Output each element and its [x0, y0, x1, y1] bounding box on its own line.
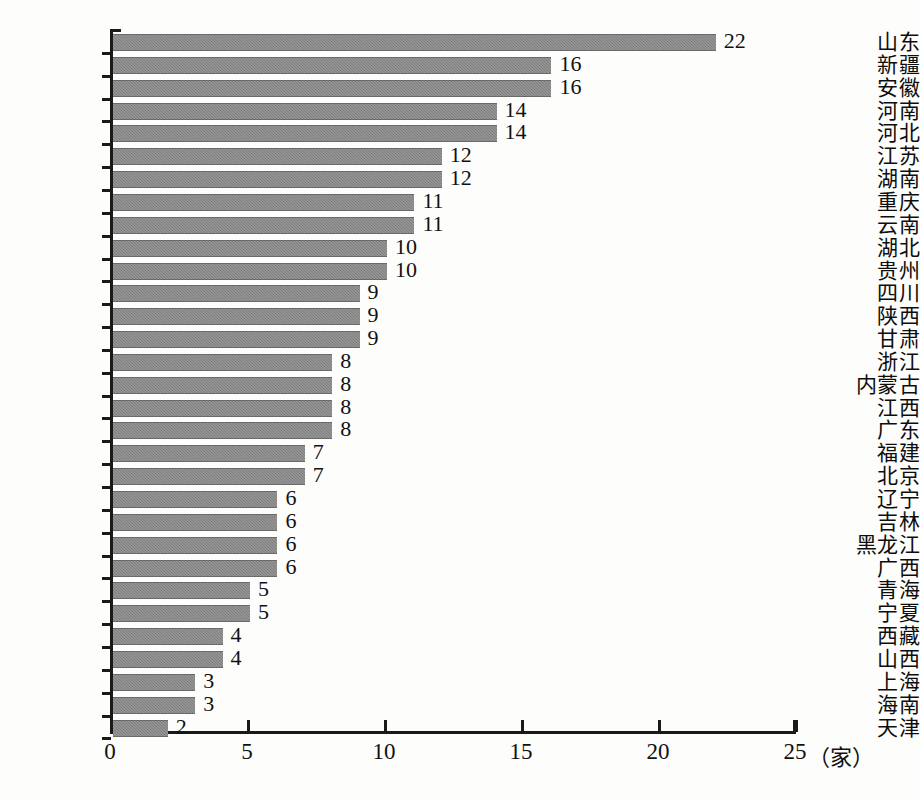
bar-row: 青海5: [0, 581, 920, 604]
category-label: 海南: [814, 695, 920, 716]
bar: [113, 400, 332, 417]
category-label: 西藏: [814, 626, 920, 647]
bar-row: 内蒙古8: [0, 376, 920, 399]
category-label: 黑龙江: [814, 535, 920, 556]
bar-row: 辽宁6: [0, 490, 920, 513]
x-axis-tick-label: 25: [784, 739, 807, 765]
category-label: 重庆: [814, 192, 920, 213]
bar-row: 甘肃9: [0, 330, 920, 353]
bar-row: 黑龙江6: [0, 536, 920, 559]
bar-value-label: 12: [450, 144, 472, 166]
bar-row: 湖北10: [0, 239, 920, 262]
bar-value-label: 22: [724, 30, 746, 52]
category-label: 四川: [814, 283, 920, 304]
bar-row: 新疆16: [0, 56, 920, 79]
bar-value-label: 6: [285, 510, 296, 532]
bar: [113, 354, 332, 371]
bar-value-label: 6: [285, 533, 296, 555]
bar-value-label: 9: [368, 281, 379, 303]
category-label: 内蒙古: [814, 375, 920, 396]
chart-page: 山东22新疆16安徽16河南14河北14江苏12湖南12重庆11云南11湖北10…: [0, 0, 920, 799]
x-axis-tick: [247, 720, 250, 732]
bar-row: 重庆11: [0, 193, 920, 216]
bar: [113, 582, 250, 599]
category-label: 江西: [814, 398, 920, 419]
bar-value-label: 9: [368, 327, 379, 349]
bar-row: 山东22: [0, 33, 920, 56]
bar: [113, 422, 332, 439]
bar-value-label: 2: [176, 716, 187, 738]
bar: [113, 240, 387, 257]
bar: [113, 468, 305, 485]
category-label: 福建: [814, 443, 920, 464]
category-label: 宁夏: [814, 603, 920, 624]
bar-value-label: 7: [313, 464, 324, 486]
bar-value-label: 11: [422, 213, 443, 235]
category-label: 山西: [814, 649, 920, 670]
bar: [113, 57, 551, 74]
bar: [113, 651, 223, 668]
bar-value-label: 10: [395, 236, 417, 258]
bar-value-label: 3: [203, 670, 214, 692]
bar-value-label: 4: [231, 647, 242, 669]
bar-value-label: 14: [505, 99, 527, 121]
bar-row: 陕西9: [0, 307, 920, 330]
x-axis-tick-label: 5: [241, 739, 253, 765]
bar-row: 吉林6: [0, 513, 920, 536]
category-label: 浙江: [814, 352, 920, 373]
category-label: 湖北: [814, 238, 920, 259]
category-label: 河南: [814, 101, 920, 122]
bar-row: 山西4: [0, 650, 920, 673]
x-axis-tick-label: 20: [647, 739, 670, 765]
bar: [113, 80, 551, 97]
bar: [113, 674, 195, 691]
bar-value-label: 4: [231, 624, 242, 646]
bar: [113, 217, 414, 234]
bar-row: 河南14: [0, 102, 920, 125]
bar: [113, 491, 277, 508]
bar: [113, 720, 168, 737]
bar-value-label: 10: [395, 259, 417, 281]
category-label: 云南: [814, 215, 920, 236]
bar: [113, 560, 277, 577]
x-axis-tick: [384, 720, 387, 732]
category-label: 上海: [814, 672, 920, 693]
bar: [113, 34, 716, 51]
bar: [113, 628, 223, 645]
bar: [113, 171, 442, 188]
bar: [113, 514, 277, 531]
bar-row: 福建7: [0, 444, 920, 467]
category-label: 山东: [814, 32, 920, 53]
bar: [113, 103, 497, 120]
x-axis-tick: [521, 720, 524, 732]
category-label: 陕西: [814, 306, 920, 327]
bar: [113, 377, 332, 394]
bar: [113, 605, 250, 622]
bar-value-label: 5: [258, 601, 269, 623]
bar: [113, 148, 442, 165]
bar-value-label: 5: [258, 578, 269, 600]
bar-row: 湖南12: [0, 170, 920, 193]
bar-row: 上海3: [0, 673, 920, 696]
category-label: 青海: [814, 580, 920, 601]
category-label: 河北: [814, 123, 920, 144]
bar-row: 天津2: [0, 719, 920, 742]
bar-value-label: 12: [450, 167, 472, 189]
bar: [113, 285, 360, 302]
bar-row: 安徽16: [0, 79, 920, 102]
bar-value-label: 9: [368, 304, 379, 326]
x-axis-tick: [658, 720, 661, 732]
x-axis-unit-label: （家）: [808, 739, 874, 771]
category-label: 北京: [814, 466, 920, 487]
y-axis-top-cap: [110, 29, 121, 32]
bar-value-label: 14: [505, 121, 527, 143]
bar-row: 江西8: [0, 399, 920, 422]
bar-row: 西藏4: [0, 627, 920, 650]
category-label: 安徽: [814, 78, 920, 99]
bar-value-label: 11: [422, 190, 443, 212]
category-label: 辽宁: [814, 489, 920, 510]
bar-value-label: 8: [340, 373, 351, 395]
bar-value-label: 8: [340, 418, 351, 440]
x-axis-tick-label: 0: [104, 739, 116, 765]
bar-row: 四川9: [0, 284, 920, 307]
